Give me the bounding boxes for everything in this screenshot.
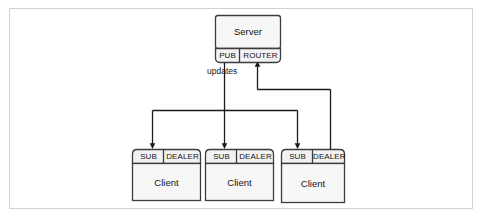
client-2-port-strip [206,150,274,164]
figure-container: Server PUB ROUTER updates SUB DEALER Cli… [0,0,485,221]
client-1-body [133,164,201,201]
client-2-body [206,164,274,201]
edge-dealer-to-router [258,64,331,150]
edge-pub-fanout [153,62,298,146]
server-node[interactable] [216,16,281,63]
server-body [216,16,281,49]
client-node-3[interactable] [282,150,345,203]
client-node-2[interactable] [206,150,274,201]
server-port-strip [216,49,281,63]
client-1-port-strip [133,150,201,164]
client-3-body [282,164,345,203]
client-node-1[interactable] [133,150,201,201]
diagram-canvas [0,0,485,221]
